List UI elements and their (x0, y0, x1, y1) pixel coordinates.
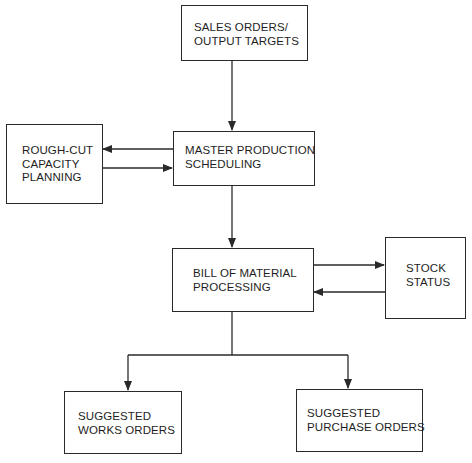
node-stock-status-label: STOCK STATUS (406, 262, 450, 289)
node-suggested-works-orders: SUGGESTED WORKS ORDERS (64, 391, 182, 454)
node-master-production-scheduling: MASTER PRODUCTION SCHEDULING (173, 131, 315, 186)
node-rough-cut-label: ROUGH-CUT CAPACITY PLANNING (22, 144, 93, 185)
mrp-flowchart: SALES ORDERS/ OUTPUT TARGETS ROUGH-CUT C… (0, 0, 472, 463)
node-mps-label: MASTER PRODUCTION SCHEDULING (185, 144, 315, 171)
node-sales-orders: SALES ORDERS/ OUTPUT TARGETS (181, 5, 308, 61)
node-bill-of-material-processing: BILL OF MATERIAL PROCESSING (172, 248, 314, 312)
node-purchase-orders-label: SUGGESTED PURCHASE ORDERS (307, 407, 425, 434)
node-stock-status: STOCK STATUS (385, 237, 466, 319)
node-rough-cut-capacity-planning: ROUGH-CUT CAPACITY PLANNING (6, 124, 103, 204)
node-suggested-purchase-orders: SUGGESTED PURCHASE ORDERS (296, 389, 423, 452)
node-sales-orders-label: SALES ORDERS/ OUTPUT TARGETS (194, 21, 299, 48)
node-bom-label: BILL OF MATERIAL PROCESSING (193, 267, 297, 294)
node-works-orders-label: SUGGESTED WORKS ORDERS (78, 410, 175, 437)
